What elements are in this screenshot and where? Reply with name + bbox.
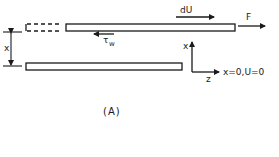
force-label: F	[246, 12, 251, 22]
velocity-increment-label: dU	[180, 5, 192, 15]
top-plate	[66, 24, 235, 31]
gap-label: x	[4, 43, 10, 53]
wall-shear-subscript: w	[109, 40, 115, 48]
couette-flow-diagram: x dU F τ w x z x=0,U=0 (A)	[0, 0, 279, 157]
figure-caption: (A)	[103, 106, 121, 117]
boundary-condition-label: x=0,U=0	[223, 67, 265, 77]
top-plate-dashed-extension	[26, 24, 62, 31]
bottom-plate	[26, 63, 182, 70]
axis-x-label: x	[183, 41, 189, 51]
wall-shear-label: τ	[103, 35, 108, 45]
axis-z-label: z	[206, 74, 211, 84]
